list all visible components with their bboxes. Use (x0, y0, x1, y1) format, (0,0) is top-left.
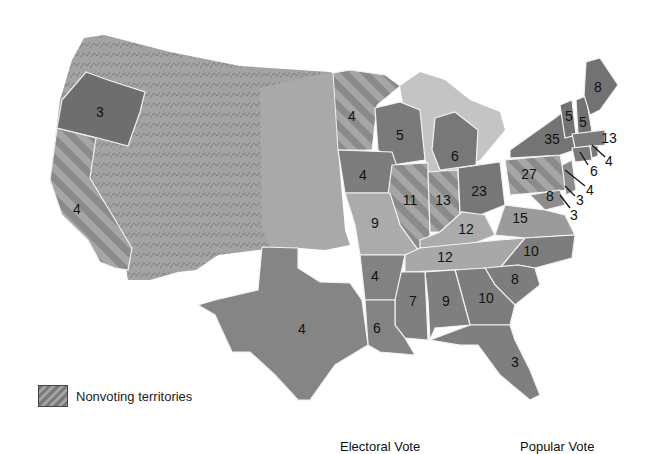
label-alabama: 9 (442, 293, 450, 309)
label-new-hampshire: 5 (579, 114, 587, 130)
label-oregon: 3 (96, 104, 104, 120)
legend-label: Nonvoting territories (76, 389, 192, 404)
map-legend: Nonvoting territories (38, 385, 192, 407)
popular-vote-heading: Popular Vote (520, 439, 594, 454)
label-indiana: 13 (435, 192, 451, 208)
label-wisconsin: 5 (396, 127, 404, 143)
state-florida[interactable] (430, 325, 540, 400)
label-georgia: 10 (478, 290, 494, 306)
label-missouri: 9 (371, 215, 379, 231)
label-minnesota: 4 (348, 108, 356, 124)
state-virginia[interactable] (495, 205, 575, 238)
label-michigan: 6 (451, 148, 459, 164)
label-kentucky: 12 (458, 221, 474, 237)
label-virginia: 15 (512, 210, 528, 226)
state-massachusetts[interactable] (572, 130, 605, 148)
label-vermont: 5 (565, 108, 573, 124)
state-connecticut[interactable] (572, 146, 592, 162)
label-connecticut: 6 (590, 163, 598, 179)
label-arkansas: 4 (371, 268, 379, 284)
label-louisiana: 6 (373, 320, 381, 336)
state-rhode-island[interactable] (590, 146, 598, 158)
label-maryland: 8 (546, 188, 554, 204)
label-florida: 3 (511, 354, 519, 370)
label-new-york: 35 (544, 131, 560, 147)
label-new-jersey: 4 (586, 182, 594, 198)
label-ohio: 23 (471, 183, 487, 199)
label-mississippi: 7 (409, 293, 417, 309)
label-massachusetts: 13 (601, 130, 617, 146)
label-iowa: 4 (359, 167, 367, 183)
label-dc-callout: 3 (570, 207, 578, 223)
label-california: 4 (73, 201, 81, 217)
label-pennsylvania: 27 (521, 166, 537, 182)
label-maine: 8 (594, 79, 602, 95)
label-rhode-island: 4 (605, 153, 613, 169)
electoral-vote-heading: Electoral Vote (340, 439, 420, 454)
label-delaware: 3 (576, 192, 584, 208)
state-texas[interactable] (198, 247, 368, 400)
label-north-carolina: 10 (523, 243, 539, 259)
label-illinois: 11 (403, 192, 418, 208)
label-texas: 4 (298, 321, 306, 337)
label-south-carolina: 8 (511, 271, 519, 287)
hatch-swatch-icon (38, 385, 68, 407)
label-tennessee: 12 (437, 249, 453, 265)
